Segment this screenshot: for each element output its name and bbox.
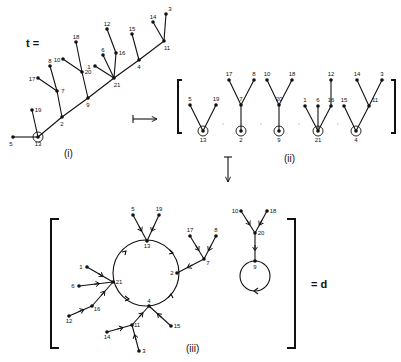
vertex-21 [112, 76, 116, 80]
edge [241, 80, 254, 105]
subtree-9: 9201018 [264, 71, 296, 143]
vertex-20 [80, 70, 84, 74]
vertex-label: 1 [79, 264, 83, 270]
vertex-15 [342, 104, 346, 108]
vertex-17 [36, 76, 40, 80]
edge [57, 91, 62, 117]
vertex-label: 17 [29, 76, 36, 82]
vertex-15 [130, 32, 134, 36]
vertex-label: 15 [341, 97, 348, 103]
edge-arrow-icon [139, 313, 142, 317]
vertex-label: 21 [114, 82, 121, 88]
edge-arrow-icon [188, 265, 192, 267]
edge [164, 14, 166, 41]
edge-arrow-icon [158, 314, 162, 317]
edge-arrow-icon [94, 284, 99, 285]
vertex-label: 6 [71, 283, 75, 289]
vertex-13 [36, 135, 40, 139]
edge-arrow-icon [139, 226, 141, 230]
vertex-label: 13 [200, 137, 207, 143]
vertex-label: 11 [164, 45, 171, 51]
vertex-label: 10 [264, 71, 271, 77]
maps-to-arrow-icon [133, 115, 157, 123]
vertex-label: 9 [277, 137, 281, 143]
vertex-label: 4 [354, 137, 358, 143]
edge [88, 78, 114, 98]
vertex-label: 19 [156, 206, 163, 212]
panel-ii-right-bracket [391, 80, 395, 133]
vertex-9 [253, 259, 257, 263]
vertex-label: 16 [328, 97, 335, 103]
vertex-12 [329, 78, 333, 82]
cycle-arrow-icon [168, 294, 173, 298]
separator: , [298, 119, 300, 125]
vertex-10 [239, 209, 243, 213]
result-label: = d [311, 278, 327, 290]
panel-i-caption: (i) [64, 148, 73, 159]
edge-arrow-icon [98, 274, 102, 276]
separator: , [222, 119, 224, 125]
tree-label: t = [26, 37, 39, 49]
edge [132, 34, 139, 60]
edge [114, 60, 139, 78]
edge-arrow-icon [79, 310, 84, 312]
edge-arrow-icon [260, 220, 262, 224]
vertex-label: 3 [168, 6, 172, 12]
vertex-1 [85, 265, 89, 269]
vertex-6 [77, 284, 81, 288]
panel-i-tree: 135192717892010182116161241511143 [9, 6, 172, 147]
vertex-label: 15 [129, 26, 136, 32]
edge [62, 98, 88, 117]
vertex-15 [169, 324, 173, 328]
vertex-label: 13 [144, 243, 151, 249]
vertex-20 [277, 103, 281, 107]
panel-iii-mapping: 135192717841511143211616129201018 [66, 206, 277, 354]
vertex-3 [137, 349, 141, 353]
panel-ii-caption: (ii) [284, 153, 295, 164]
edge [190, 105, 203, 131]
vertex-label: 7 [61, 88, 65, 94]
vertex-label: 5 [131, 206, 135, 212]
vertex-16 [114, 51, 118, 55]
vertex-4 [137, 58, 141, 62]
vertex-label: 7 [206, 260, 210, 266]
edge [356, 106, 369, 131]
vertex-label: 9 [253, 264, 257, 270]
vertex-21 [316, 129, 320, 133]
edge [153, 22, 164, 41]
vertex-label: 5 [9, 141, 13, 147]
down-arrow-icon [224, 157, 232, 182]
vertex-16 [329, 104, 333, 108]
edge [63, 59, 82, 72]
edge [82, 72, 88, 98]
vertex-11 [367, 104, 371, 108]
vertex-19 [30, 108, 34, 112]
edge [139, 41, 164, 60]
vertex-4 [354, 129, 358, 133]
vertex-label: 19 [35, 107, 42, 113]
separator: , [260, 119, 262, 125]
vertex-label: 21 [116, 279, 123, 285]
vertex-label: 5 [188, 96, 192, 102]
vertex-9 [86, 96, 90, 100]
panel-ii-forest: 135192717892010182116161241511143 [188, 71, 384, 143]
vertex-label: 18 [289, 71, 296, 77]
vertex-label: 8 [48, 58, 52, 64]
vertex-label: 18 [270, 208, 277, 214]
vertex-label: 17 [187, 227, 194, 233]
vertex-9 [277, 129, 281, 133]
panel-iii-right-bracket [287, 219, 295, 348]
vertex-label: 9 [86, 102, 90, 108]
vertex-3 [380, 78, 384, 82]
vertex-label: 14 [354, 71, 361, 77]
vertex-18 [74, 40, 78, 44]
vertex-21 [111, 280, 115, 284]
vertex-label: 1 [303, 97, 307, 103]
vertex-label: 14 [104, 334, 111, 340]
vertex-label: 6 [101, 47, 105, 53]
vertex-8 [214, 234, 218, 238]
subtree-2: 27178 [226, 71, 257, 143]
subtree-13: 13519 [188, 96, 220, 143]
edge [76, 42, 82, 72]
edge [203, 105, 216, 131]
